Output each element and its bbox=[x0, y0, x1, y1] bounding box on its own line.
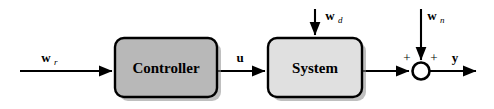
summing-sign-left: + bbox=[403, 50, 410, 65]
signal-u-base: u bbox=[236, 50, 243, 65]
block-controller[interactable]: Controller bbox=[115, 38, 221, 101]
summing-junction-circle bbox=[413, 63, 430, 80]
signal-wn-subscript: n bbox=[440, 15, 445, 25]
signal-wr-subscript: r bbox=[54, 57, 58, 67]
signal-label-y: y bbox=[452, 50, 459, 65]
system-label: System bbox=[292, 60, 338, 76]
signal-labels-group: w r u w d w n y bbox=[41, 8, 458, 67]
block-system[interactable]: System bbox=[268, 38, 366, 101]
signal-label-u: u bbox=[236, 50, 243, 65]
signal-wn-base: w bbox=[427, 8, 437, 23]
signal-wr-base: w bbox=[41, 50, 51, 65]
signal-label-wr: w r bbox=[41, 50, 58, 67]
signal-wd-subscript: d bbox=[338, 15, 343, 25]
controller-label: Controller bbox=[132, 60, 200, 76]
signal-label-wn: w n bbox=[427, 8, 445, 25]
block-diagram-canvas: Controller System + + w r u w bbox=[0, 0, 494, 109]
signal-y-base: y bbox=[452, 50, 459, 65]
block-diagram: Controller System + + w r u w bbox=[0, 0, 494, 109]
signal-label-wd: w d bbox=[325, 8, 343, 25]
summing-sign-right: + bbox=[430, 50, 437, 65]
signal-wd-base: w bbox=[325, 8, 335, 23]
